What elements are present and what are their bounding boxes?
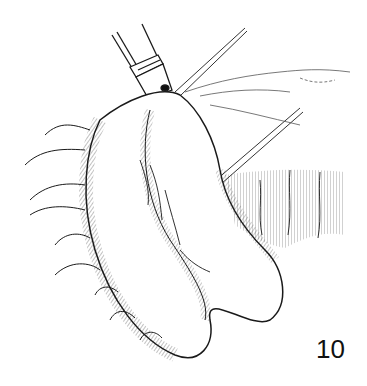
illustration-canvas: 10 — [0, 0, 367, 386]
figure-number: 10 — [316, 334, 345, 365]
surgical-illustration — [0, 0, 367, 386]
tissue-upper — [185, 70, 350, 125]
instrument-shaft — [112, 24, 172, 98]
